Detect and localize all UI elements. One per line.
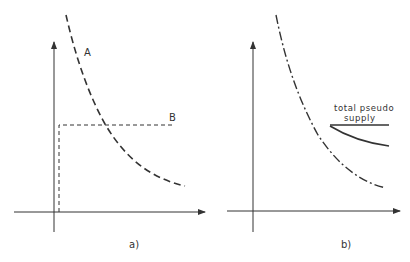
panel-a-caption: a) bbox=[129, 239, 139, 250]
demand-curve-b bbox=[276, 15, 386, 188]
diagram-canvas: A B a) total pseudo supply b) bbox=[0, 0, 410, 262]
panel-b-caption: b) bbox=[341, 239, 351, 250]
annotation-supply: supply bbox=[344, 113, 376, 123]
curve-label-a: A bbox=[84, 47, 91, 58]
panel-a: A B a) bbox=[14, 15, 205, 250]
pseudo-supply-curve bbox=[330, 126, 389, 146]
line-label-b: B bbox=[169, 112, 176, 123]
panel-b: total pseudo supply b) bbox=[227, 15, 400, 250]
annotation-total-pseudo: total pseudo bbox=[334, 103, 394, 113]
curve-a bbox=[66, 15, 185, 186]
dashed-line-b bbox=[59, 125, 175, 212]
